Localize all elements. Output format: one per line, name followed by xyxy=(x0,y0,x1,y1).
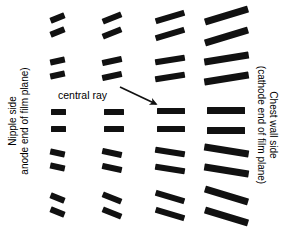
bar xyxy=(49,149,65,158)
bar xyxy=(203,207,248,227)
bar xyxy=(49,12,65,23)
bar xyxy=(102,191,123,204)
bar xyxy=(155,71,186,82)
bar xyxy=(155,54,186,65)
chest-wall-line2: (cathode end of film plane) xyxy=(255,60,267,190)
bar-pair-r4-c4 xyxy=(202,140,251,180)
bar xyxy=(102,162,123,172)
bar xyxy=(102,70,123,80)
bar xyxy=(49,192,65,203)
bar xyxy=(203,71,249,85)
central-ray-arrow-icon xyxy=(118,84,166,112)
bar xyxy=(49,163,65,172)
bar-pair-r4-c1 xyxy=(48,143,67,177)
bar-pair-r1-c1 xyxy=(48,8,67,42)
bar-pair-r4-c2 xyxy=(100,143,124,178)
bar-pair-r1-c3 xyxy=(153,7,187,44)
bar-pair-r4-c3 xyxy=(153,142,187,179)
bar xyxy=(49,206,65,217)
bar xyxy=(155,146,186,157)
bar-pair-r3-c4 xyxy=(205,100,247,140)
bar-pair-r3-c1 xyxy=(49,102,68,139)
bar xyxy=(51,109,66,115)
bar xyxy=(155,9,185,24)
bar-pair-r1-c4 xyxy=(202,6,251,47)
bar-pair-r5-c1 xyxy=(48,188,67,222)
bar xyxy=(102,26,123,39)
bar xyxy=(207,127,245,134)
bar xyxy=(104,126,124,132)
bar-pair-r2-c4 xyxy=(202,48,251,88)
bar xyxy=(51,126,66,132)
bar xyxy=(102,11,123,24)
chest-wall-side-label: Chest wall side (cathode end of film pla… xyxy=(255,60,279,190)
central-ray-label: central ray xyxy=(58,89,107,101)
bar xyxy=(102,55,123,65)
nipple-side-line1: Nipple side xyxy=(7,56,19,186)
bar-pair-r5-c2 xyxy=(100,188,124,223)
bar xyxy=(49,26,65,37)
bar xyxy=(203,163,249,177)
bar xyxy=(155,163,186,174)
bar xyxy=(155,26,185,41)
bar xyxy=(49,71,65,80)
bar xyxy=(102,147,123,157)
bar xyxy=(155,189,185,204)
nipple-side-line2: anode end of film plane) xyxy=(19,56,31,186)
nipple-side-label: Nipple side anode end of film plane) xyxy=(7,56,31,186)
bar-pair-r5-c3 xyxy=(153,187,187,224)
bar xyxy=(207,107,245,114)
bar-pair-r2-c1 xyxy=(48,51,67,85)
bar xyxy=(157,126,185,132)
bar xyxy=(203,186,248,206)
bar xyxy=(102,206,123,219)
bar-pair-r2-c2 xyxy=(100,51,124,86)
bar xyxy=(49,57,65,66)
bar xyxy=(203,51,249,65)
bar-pair-r2-c3 xyxy=(153,50,187,87)
chest-wall-line1: Chest wall side xyxy=(267,60,279,190)
bar xyxy=(203,6,248,26)
bar-pattern-figure: Nipple side anode end of film plane) Che… xyxy=(0,0,288,237)
bar xyxy=(203,143,249,157)
bar xyxy=(203,27,248,47)
bar xyxy=(155,206,185,221)
bar-pair-r5-c4 xyxy=(202,186,251,227)
bar-pair-r1-c2 xyxy=(100,8,124,43)
